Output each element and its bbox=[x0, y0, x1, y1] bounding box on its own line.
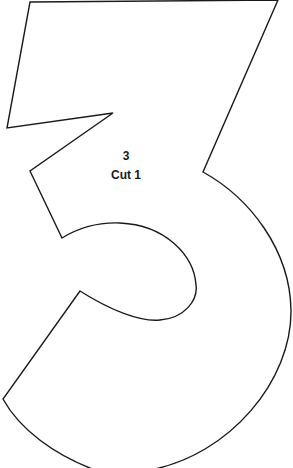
number-three-outline bbox=[0, 0, 293, 468]
cut-instruction-label: Cut 1 bbox=[111, 168, 141, 182]
number-label: 3 bbox=[111, 149, 141, 163]
